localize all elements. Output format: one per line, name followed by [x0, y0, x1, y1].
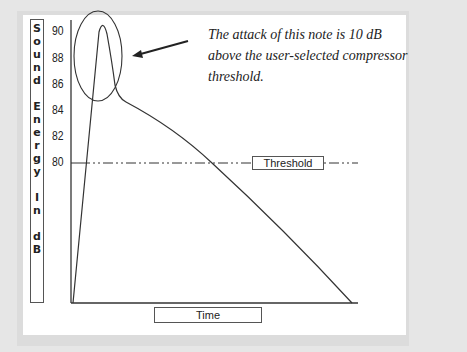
x-axis-label: Time — [154, 307, 262, 323]
threshold-label: Threshold — [252, 156, 324, 170]
attack-highlight-ellipse — [74, 11, 122, 101]
annotation-line-2: above the user-selected compressor — [208, 45, 408, 66]
annotation-text: The attack of this note is 10 dB above t… — [208, 24, 408, 87]
annotation-line-1: The attack of this note is 10 dB — [208, 24, 408, 45]
annotation-line-3: threshold. — [208, 66, 408, 87]
arrow-line — [137, 41, 188, 55]
arrow-head-icon — [132, 50, 143, 58]
